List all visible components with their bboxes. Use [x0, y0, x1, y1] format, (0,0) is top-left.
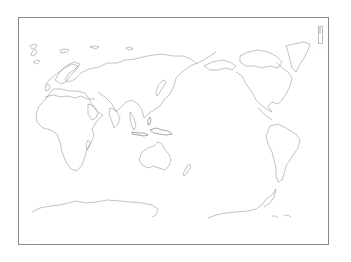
world-map: [0, 0, 351, 262]
north-america-outline: [236, 62, 292, 112]
madagascar-outline: [86, 140, 90, 150]
central-america-outline: [258, 108, 272, 120]
australia-outline: [139, 142, 171, 170]
philippines-outline: [148, 117, 151, 125]
alaska-outline: [204, 60, 236, 70]
new-zealand-outline: [183, 164, 191, 176]
antarctica-east-outline: [208, 189, 276, 218]
asia-outline: [98, 52, 216, 118]
canadian-archipelago-outline: [240, 50, 282, 68]
antarctica-west-outline: [32, 200, 158, 217]
indonesia-outline: [132, 128, 172, 136]
greenland-outline: [286, 42, 310, 72]
antarctic-islands-outline: [272, 215, 291, 218]
southeast-asia-outline: [130, 112, 136, 130]
japan-outline: [156, 80, 166, 96]
europe-outline: [45, 54, 197, 86]
arctic-islands-outline: [60, 46, 133, 53]
india-outline: [109, 108, 120, 128]
map-credit: - - - - -: [24, 238, 34, 242]
africa-outline: [36, 89, 103, 171]
iceland-outline: [30, 44, 40, 64]
south-america-outline: [266, 124, 300, 182]
scale-mark: ・・: [318, 48, 324, 52]
map-title-box: 白地図: [318, 26, 323, 44]
